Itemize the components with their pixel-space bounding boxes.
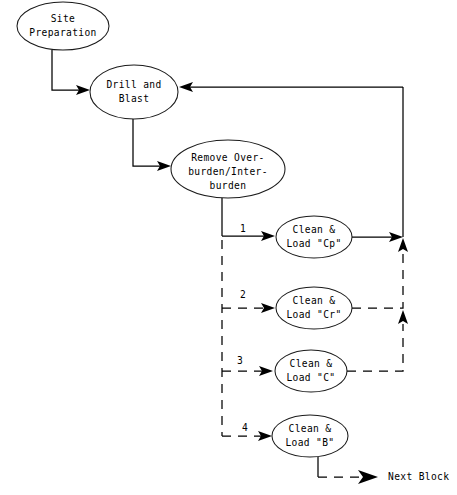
- node-label-line: Preparation: [29, 27, 96, 38]
- edge-clean-load-cp-to-right-rail: [352, 232, 408, 252]
- flowchart-canvas: Site Preparation Drill and Blast Remove …: [0, 0, 457, 495]
- edge-clean-load-c-to-right-rail: [347, 324, 403, 371]
- node-label-line: Site: [51, 13, 76, 24]
- node-label-line: Load "Cr": [286, 309, 341, 320]
- edge-path: [52, 50, 85, 90]
- arrow-head-icon: [358, 470, 378, 484]
- flowchart-diagram: Site Preparation Drill and Blast Remove …: [0, 0, 457, 495]
- branch-label-4: 4: [242, 422, 248, 433]
- node-clean-load-c[interactable]: Clean & Load "C": [275, 350, 347, 392]
- node-label-line: Remove Over-: [191, 152, 265, 163]
- node-shape-ellipse: [272, 415, 348, 457]
- arrow-head-up-icon: [398, 310, 408, 324]
- node-shape-ellipse: [276, 216, 352, 258]
- branch-label-2: 2: [240, 289, 246, 300]
- node-clean-load-cr[interactable]: Clean & Load "Cr": [276, 287, 352, 329]
- edge-path: [133, 119, 165, 166]
- arrow-head-up-icon: [398, 238, 408, 252]
- next-block-label: Next Block: [388, 471, 449, 482]
- node-label-line: Clean &: [293, 224, 336, 235]
- node-label-line: Clean &: [293, 295, 336, 306]
- node-label-line: Drill and: [106, 79, 161, 90]
- node-label-line: burden: [210, 180, 247, 191]
- node-shape-ellipse: [275, 350, 347, 392]
- node-label-line: Clean &: [289, 423, 332, 434]
- node-drill-and-blast[interactable]: Drill and Blast: [90, 65, 178, 119]
- node-label-line: Blast: [119, 93, 150, 104]
- branch-label-1: 1: [240, 223, 246, 234]
- node-clean-load-cp[interactable]: Clean & Load "Cp": [276, 216, 352, 258]
- edge-drill-and-blast-to-remove-overburden: [133, 119, 171, 171]
- node-site-preparation[interactable]: Site Preparation: [17, 2, 109, 50]
- node-label-line: Load "B": [285, 437, 334, 448]
- node-label-line: burden/Inter-: [188, 166, 268, 177]
- node-label-line: Load "C": [286, 372, 335, 383]
- node-shape-ellipse: [90, 65, 178, 119]
- node-shape-ellipse: [276, 287, 352, 329]
- edge-branch-1-to-clean-load-cp: [222, 231, 275, 241]
- node-remove-overburden[interactable]: Remove Over- burden/Inter- burden: [171, 140, 285, 198]
- node-label-line: Clean &: [290, 358, 333, 369]
- branch-label-3: 3: [237, 355, 243, 366]
- node-shape-ellipse: [17, 2, 109, 50]
- arrow-head-icon: [261, 303, 275, 313]
- edge-branch-3-to-clean-load-c: [222, 366, 273, 376]
- edge-clean-load-cr-to-right-rail: [352, 252, 408, 324]
- node-label-line: Load "Cp": [286, 238, 341, 249]
- edge-branch-2-to-clean-load-cr: [222, 303, 275, 313]
- edge-path: [347, 324, 403, 371]
- edge-path: [352, 252, 403, 308]
- edge-site-preparation-to-drill-and-blast: [52, 50, 90, 95]
- node-clean-load-b[interactable]: Clean & Load "B": [272, 415, 348, 457]
- edge-clean-load-b-to-next-block: [318, 457, 378, 484]
